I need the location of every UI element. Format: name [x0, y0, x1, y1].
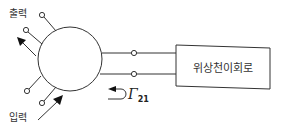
- gamma-subscript: 21: [138, 95, 150, 104]
- reflection-loop-arrow: [108, 89, 126, 99]
- port-lead-top-2: [28, 32, 42, 44]
- circulator-circle: [38, 27, 102, 91]
- phase-shifter-label: 위상천이회로: [193, 61, 253, 75]
- terminal-lower: [131, 71, 136, 76]
- circuit-diagram: 출력 입력 위상천이회로 Γ21: [0, 0, 282, 131]
- terminal-upper: [131, 50, 136, 55]
- port-terminal-top-1: [39, 12, 44, 17]
- port-lead-top-1: [44, 17, 56, 31]
- output-arrow-shaft: [22, 42, 36, 56]
- port-terminal-bottom-2: [39, 100, 44, 105]
- input-label: 입력: [9, 111, 27, 123]
- input-arrow-head: [53, 95, 63, 105]
- reflection-loop-arrowhead: [108, 86, 116, 92]
- output-label: 출력: [9, 8, 27, 19]
- port-terminal-top-2: [23, 27, 28, 32]
- gamma-label: Γ21: [127, 86, 149, 104]
- port-lead-bottom-1: [29, 76, 41, 89]
- port-terminal-bottom-1: [24, 88, 29, 93]
